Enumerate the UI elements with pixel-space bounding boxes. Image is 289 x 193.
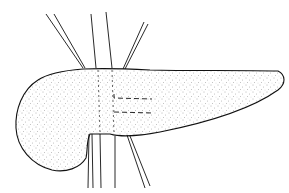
upper-vessels <box>46 12 148 69</box>
pancreas-outline <box>16 69 284 171</box>
pancreas-illustration <box>0 0 289 193</box>
illustration-canvas <box>0 0 289 193</box>
lower-vessels <box>88 134 150 188</box>
